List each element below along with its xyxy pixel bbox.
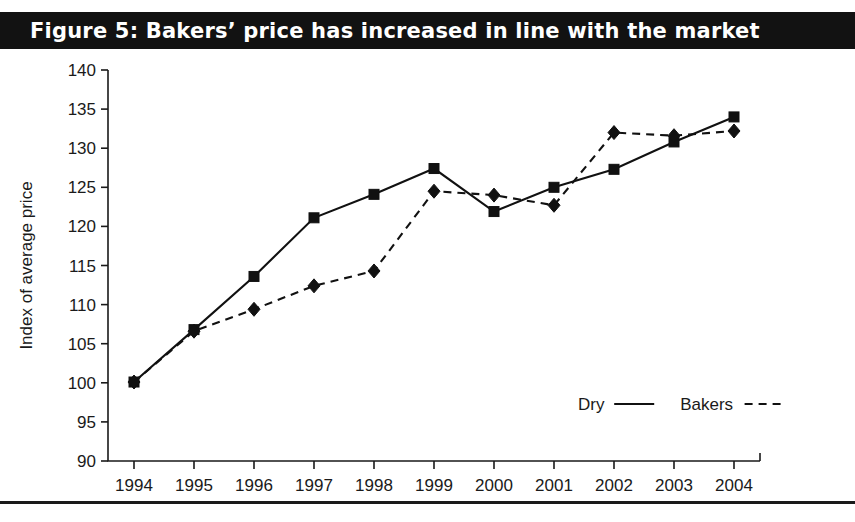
data-point-dry <box>309 213 319 223</box>
legend-label-dry: Dry <box>578 395 605 414</box>
line-chart: 9095100105110115120125130135140Index of … <box>0 49 855 499</box>
data-point-dry <box>249 271 259 281</box>
chart-axes <box>108 70 760 461</box>
y-axis-tick-label: 100 <box>68 374 96 393</box>
x-axis-tick-label: 1997 <box>295 476 333 495</box>
data-point-dry <box>429 164 439 174</box>
data-point-bakers <box>728 124 740 138</box>
x-axis-tick-label: 1996 <box>235 476 273 495</box>
y-axis-tick-label: 95 <box>77 413 96 432</box>
x-axis-tick-label: 1994 <box>115 476 153 495</box>
y-axis-tick-label: 140 <box>68 61 96 80</box>
data-point-bakers <box>248 302 260 316</box>
data-point-dry <box>729 112 739 122</box>
data-point-bakers <box>308 279 320 293</box>
data-point-bakers <box>428 184 440 198</box>
x-axis-tick-label: 2003 <box>655 476 693 495</box>
data-point-bakers <box>488 188 500 202</box>
data-point-dry <box>549 182 559 192</box>
data-point-dry <box>489 207 499 217</box>
x-axis-tick-label: 1999 <box>415 476 453 495</box>
series-line-dry <box>134 117 734 382</box>
figure-title-bar: Figure 5: Bakers’ price has increased in… <box>0 12 855 49</box>
page-title: Figure 5: Bakers’ price has increased in… <box>0 19 760 43</box>
x-axis-tick-label: 1998 <box>355 476 393 495</box>
chart-area: 9095100105110115120125130135140Index of … <box>0 49 855 499</box>
footer-note <box>0 508 855 522</box>
data-point-dry <box>369 189 379 199</box>
y-axis-tick-label: 110 <box>69 296 96 315</box>
x-axis-tick-label: 2004 <box>715 476 753 495</box>
footer-divider <box>0 501 855 504</box>
y-axis-tick-label: 135 <box>68 100 96 119</box>
x-axis-tick-label: 2001 <box>535 476 573 495</box>
figure-container: Figure 5: Bakers’ price has increased in… <box>0 0 855 522</box>
data-point-bakers <box>368 264 380 278</box>
x-axis-tick-label: 1995 <box>175 476 213 495</box>
legend-label-bakers: Bakers <box>680 395 733 414</box>
x-axis-tick-label: 2002 <box>595 476 633 495</box>
y-axis-tick-label: 125 <box>68 178 96 197</box>
y-axis-title: Index of average price <box>17 181 36 349</box>
x-axis-tick-label: 2000 <box>475 476 513 495</box>
data-point-dry <box>609 164 619 174</box>
y-axis-tick-label: 120 <box>68 217 96 236</box>
y-axis-tick-label: 90 <box>77 452 96 471</box>
y-axis-tick-label: 115 <box>69 257 96 276</box>
y-axis-tick-label: 105 <box>68 335 96 354</box>
y-axis-tick-label: 130 <box>68 139 96 158</box>
